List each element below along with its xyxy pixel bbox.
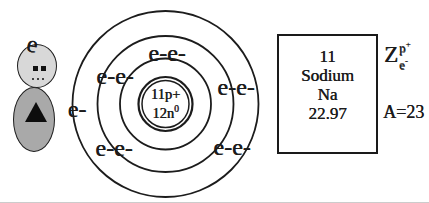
neutron-count: 12n0: [151, 102, 180, 121]
z-stack: p+ e-: [399, 38, 411, 72]
electron-label: e-: [68, 97, 87, 121]
triangle-icon: [25, 102, 47, 122]
diagram-canvas: e e-e- e-e- e-e- e- e-e- e-e- 11p+ 12n0 …: [0, 0, 429, 203]
atomic-number: 11: [279, 47, 376, 66]
electron-pair-label: e-e-: [148, 41, 185, 65]
element-box: 11 Sodium Na 22.97: [277, 34, 378, 154]
nucleus-label: 11p+ 12n0: [151, 87, 180, 121]
head-square-dot-icon: [33, 66, 38, 71]
electron-pair-label: e-e-: [95, 136, 132, 160]
electron-pair-label: e-e-: [213, 135, 250, 159]
z-annotation: Z p+ e-: [384, 38, 411, 72]
proton-annotation: p+: [399, 38, 411, 55]
head-square-dot-icon: [41, 66, 46, 71]
atomic-mass: 22.97: [279, 104, 376, 123]
electron-pair-label: e-e-: [96, 64, 133, 88]
electron-pair-label: e-e-: [217, 75, 254, 99]
mass-number-label: A=23: [383, 102, 424, 122]
proton-count: 11p+: [151, 87, 180, 102]
scan-edge-line: [0, 202, 429, 203]
element-symbol: Na: [279, 85, 376, 104]
z-symbol: Z: [384, 43, 398, 67]
electron-annotation: e-: [399, 55, 411, 72]
element-name: Sodium: [279, 66, 376, 85]
